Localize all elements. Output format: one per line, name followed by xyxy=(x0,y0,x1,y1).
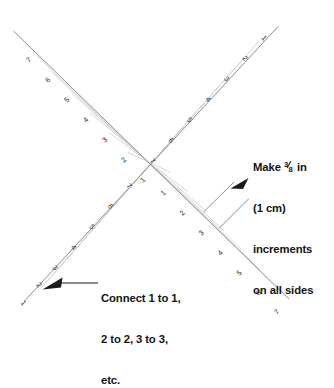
fraction-three-eighths: 38 xyxy=(284,160,294,171)
increments-callout-line3: increments xyxy=(253,243,313,257)
increments-callout-line1: Make 38 in xyxy=(253,160,313,175)
tick-number: 2 xyxy=(119,155,128,164)
increment-mark xyxy=(219,199,249,229)
tick-number: 6 xyxy=(167,136,176,145)
tick-number: 1 xyxy=(159,188,168,197)
tick-number: 4 xyxy=(81,115,90,124)
tick-number: 1 xyxy=(138,175,147,184)
connect-callout-text: Connect 1 to 1, 2 to 2, 3 to 3, etc. xyxy=(101,265,180,388)
increments-callout-line2: (1 cm) xyxy=(253,202,313,216)
tick-number: 3 xyxy=(100,135,109,144)
arrow-head-icon xyxy=(231,178,249,189)
connect-callout-pointer xyxy=(43,278,99,290)
tick-number: 1 xyxy=(19,298,28,307)
tick-number: 3 xyxy=(197,228,206,237)
tick-number: 6 xyxy=(43,75,52,84)
tick-numbers-upper-right: 1 2 3 4 5 6 7 xyxy=(148,33,269,165)
tick-number: 5 xyxy=(62,95,71,104)
tick-numbers-upper-left: 7 6 5 4 3 2 1 xyxy=(24,55,147,184)
tick-number: 5 xyxy=(235,268,244,277)
increments-callout-line4: on all sides xyxy=(253,284,313,298)
increments-prefix: Make xyxy=(253,161,284,173)
increments-suffix: in xyxy=(294,161,307,173)
tick-number: 7 xyxy=(24,55,33,64)
increments-callout-text: Make 38 in (1 cm) increments on all side… xyxy=(253,133,313,324)
tick-number: 2 xyxy=(178,208,187,217)
increment-marks-group xyxy=(204,182,250,229)
increment-mark xyxy=(204,182,235,212)
connect-callout-line1: Connect 1 to 1, xyxy=(101,292,180,306)
increments-callout-pointer xyxy=(231,178,249,189)
connect-callout-line3: etc. xyxy=(101,374,180,388)
axis-line-descending xyxy=(14,31,290,299)
fraction-denominator: 8 xyxy=(288,163,292,177)
connect-callout-line2: 2 to 2, 3 to 3, xyxy=(101,333,180,347)
tick-number: 4 xyxy=(216,248,225,257)
